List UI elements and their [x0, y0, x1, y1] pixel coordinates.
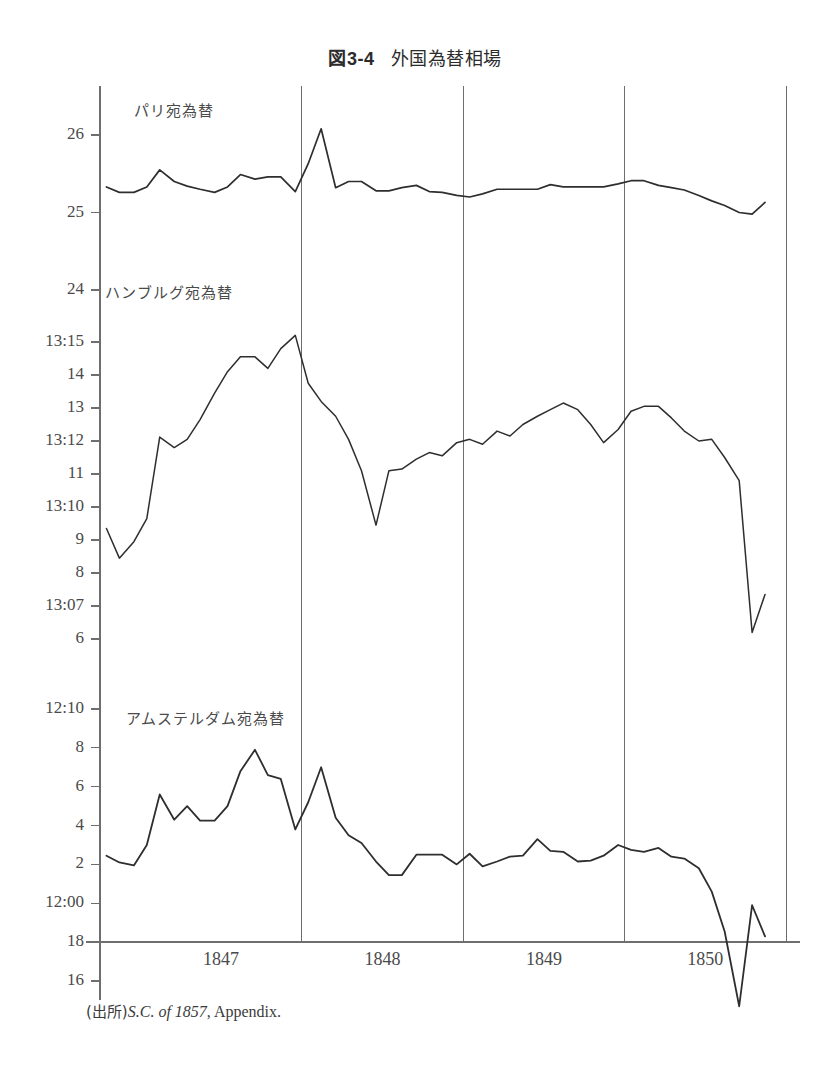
x-tick-label-3: 1850: [655, 949, 755, 970]
y-tick-label-hamburg-6: 9: [0, 529, 84, 549]
series-label-paris: パリ宛為替: [134, 99, 214, 120]
series-line-hamburg: [106, 335, 765, 632]
chart-series-lines: [106, 129, 765, 1006]
y-tick-label-amsterdam-3: 4: [0, 815, 84, 835]
y-tick-label-amsterdam-0: 12:10: [0, 698, 84, 718]
y-tick-label-hamburg-0: 13:15: [0, 331, 84, 351]
y-tick-label-amsterdam-2: 6: [0, 776, 84, 796]
x-tick-label-2: 1849: [494, 949, 594, 970]
y-tick-label-paris-0: 26: [0, 124, 84, 144]
y-tick-label-hamburg-8: 13:07: [0, 595, 84, 615]
y-tick-label-paris-2: 24: [0, 279, 84, 299]
y-tick-label-hamburg-4: 11: [0, 463, 84, 483]
y-tick-label-hamburg-7: 8: [0, 562, 84, 582]
source-rest: , Appendix.: [207, 1003, 281, 1020]
y-tick-label-hamburg-5: 13:10: [0, 496, 84, 516]
y-tick-label-hamburg-2: 13: [0, 397, 84, 417]
y-tick-label-amsterdam-4: 2: [0, 853, 84, 873]
y-tick-label-amsterdam-5: 12:00: [0, 892, 84, 912]
chart-canvas: [0, 0, 830, 1068]
source-prefix: (出所): [86, 1003, 128, 1021]
chart-axes: [86, 86, 800, 1000]
y-tick-label-amsterdam-6: 18: [0, 931, 84, 951]
figure-root: 図3-4外国為替相場 26252413:15141313:121113:1098…: [0, 0, 830, 1068]
y-tick-label-amsterdam-7: 16: [0, 970, 84, 990]
y-tick-label-amsterdam-1: 8: [0, 737, 84, 757]
x-tick-label-0: 1847: [171, 949, 271, 970]
series-label-amsterdam: アムステルダム宛為替: [126, 707, 285, 728]
source-citation: S.C. of 1857: [128, 1003, 207, 1020]
y-tick-label-hamburg-1: 14: [0, 364, 84, 384]
series-label-hamburg: ハンブルグ宛為替: [105, 281, 233, 302]
y-tick-label-hamburg-3: 13:12: [0, 430, 84, 450]
chart-tickmarks: [91, 135, 100, 981]
y-tick-label-paris-1: 25: [0, 202, 84, 222]
chart-gridlines: [302, 86, 786, 942]
series-line-paris: [106, 129, 765, 214]
source-note: (出所)S.C. of 1857, Appendix.: [86, 1000, 281, 1021]
x-tick-label-1: 1848: [332, 949, 432, 970]
y-tick-label-hamburg-9: 6: [0, 628, 84, 648]
